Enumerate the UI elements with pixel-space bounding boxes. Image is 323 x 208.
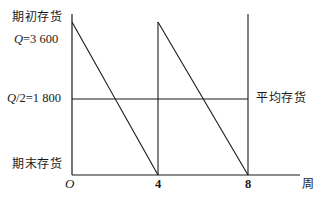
q-half-value-rest: /2=1 800 (16, 91, 61, 105)
x-tick-label-8: 8 (240, 178, 256, 191)
origin-label: O (65, 177, 74, 190)
q-half-symbol: Q (7, 91, 16, 105)
ending-inventory-label: 期末存货 (12, 158, 62, 170)
beginning-inventory-label: 期初存货 (12, 11, 62, 23)
order-quantity-label: Q=3 600 (14, 33, 58, 46)
x-axis-unit-label: 周 (302, 178, 315, 190)
average-inventory-label: 平均存货 (256, 92, 306, 104)
average-inventory-value-label: Q/2=1 800 (7, 92, 61, 105)
x-tick-label-4: 4 (150, 178, 166, 191)
q-symbol: Q (14, 32, 23, 46)
q-value-rest: =3 600 (23, 32, 58, 46)
inventory-sawtooth-chart: 期初存货 Q=3 600 Q/2=1 800 期末存货 平均存货 O 4 8 周 (0, 0, 323, 208)
